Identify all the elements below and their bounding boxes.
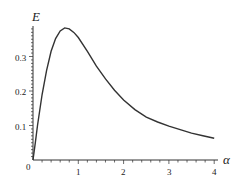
- y-tick-label-0.1: 0.1: [15, 122, 26, 132]
- x-axis-label: α: [223, 152, 231, 167]
- data-curve: [33, 28, 214, 160]
- x-tick-label-3: 3: [167, 167, 172, 177]
- y-tick-label-0.3: 0.3: [15, 53, 27, 63]
- x-axis-minor-ticks: [42, 160, 214, 164]
- y-axis-label: E: [31, 9, 40, 24]
- chart: E α 0 1 2 3 4 0.1 0.2 0.3: [0, 0, 243, 184]
- y-axis-minor-ticks: [29, 29, 33, 157]
- y-tick-label-0.2: 0.2: [15, 87, 26, 97]
- x-tick-label-4: 4: [212, 167, 217, 177]
- origin-label: 0: [26, 162, 31, 172]
- x-tick-label-2: 2: [121, 167, 126, 177]
- x-tick-label-1: 1: [76, 167, 81, 177]
